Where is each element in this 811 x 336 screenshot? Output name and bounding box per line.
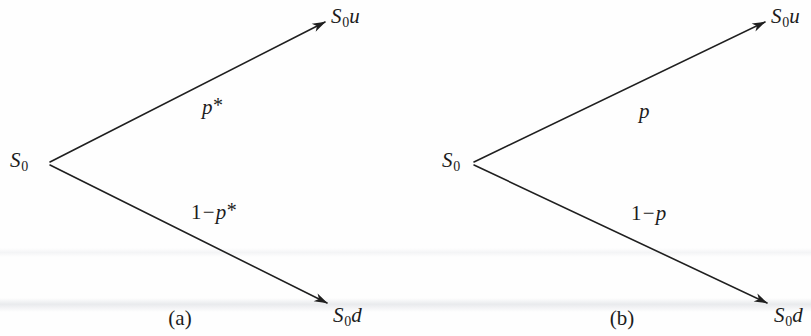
branch-a-down-line — [50, 165, 327, 303]
panel-a-down-probability-label: 1−p* — [191, 199, 237, 225]
panel-b-down-probability-label: 1−p — [631, 201, 666, 226]
panel-b-up-node-label: S0u — [771, 4, 800, 31]
branch-b-up-line — [474, 22, 765, 162]
panel-a-up-probability-label: p* — [202, 94, 223, 120]
binomial-tree-figure: S0 S0u S0d p* 1−p* (a) S0 S0u S0d p 1−p … — [0, 0, 811, 336]
panel-a-root-node-label: S0 — [10, 148, 28, 175]
panel-a-up-node-label: S0u — [331, 4, 360, 31]
panel-b-up-probability-label: p — [639, 99, 650, 124]
panel-a-caption: (a) — [155, 306, 205, 331]
panel-a-down-node-label: S0d — [333, 303, 362, 330]
panel-b-down-node-label: S0d — [774, 303, 803, 330]
branch-a-up-line — [50, 22, 325, 162]
panel-b-caption: (b) — [597, 306, 647, 331]
panel-b-root-node-label: S0 — [442, 148, 460, 175]
branch-b-down-line — [474, 165, 767, 303]
tree-lines-layer — [0, 0, 811, 336]
